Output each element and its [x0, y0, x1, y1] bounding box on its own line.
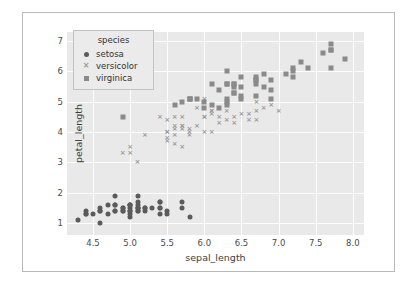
data-point-virginica	[202, 99, 207, 104]
grid-line-vertical	[279, 32, 280, 235]
data-point-setosa	[76, 217, 81, 222]
data-point-setosa	[105, 211, 110, 216]
y-tick-label: 3	[49, 157, 63, 167]
x-axis-title: sepal_length	[67, 252, 364, 263]
data-point-versicolor	[194, 123, 200, 129]
data-point-versicolor	[179, 144, 185, 150]
data-point-versicolor	[268, 102, 274, 108]
grid-line-horizontal	[67, 132, 364, 133]
grid-line-horizontal	[67, 223, 364, 224]
data-point-versicolor	[201, 114, 207, 120]
grid-line-vertical	[316, 32, 317, 235]
x-tick-label: 6.0	[198, 238, 212, 248]
data-point-versicolor	[253, 99, 259, 105]
legend-entry-virginica[interactable]: virginica	[79, 72, 148, 84]
legend-marker-glyph	[84, 52, 89, 57]
data-point-virginica	[291, 69, 296, 74]
data-point-setosa	[113, 208, 118, 213]
legend-entry-setosa[interactable]: setosa	[79, 48, 148, 60]
legend-title: species	[79, 35, 148, 45]
data-point-setosa	[157, 205, 162, 210]
data-point-virginica	[209, 102, 214, 107]
data-point-versicolor	[120, 150, 126, 156]
data-point-virginica	[269, 87, 274, 92]
data-point-virginica	[328, 48, 333, 53]
data-point-virginica	[232, 84, 237, 89]
data-point-setosa	[165, 211, 170, 216]
data-point-setosa	[128, 202, 133, 207]
grid-line-horizontal	[67, 102, 364, 103]
data-point-setosa	[157, 211, 162, 216]
data-point-virginica	[239, 75, 244, 80]
data-point-virginica	[224, 69, 229, 74]
data-point-virginica	[217, 87, 222, 92]
data-point-virginica	[217, 105, 222, 110]
data-point-virginica	[232, 90, 237, 95]
data-point-versicolor	[135, 159, 141, 165]
data-point-versicolor	[209, 129, 215, 135]
data-point-versicolor	[157, 114, 163, 120]
data-point-versicolor	[231, 120, 237, 126]
data-point-versicolor	[238, 111, 244, 117]
data-point-virginica	[202, 105, 207, 110]
data-point-virginica	[261, 72, 266, 77]
data-point-versicolor	[187, 129, 193, 135]
data-point-versicolor	[261, 105, 267, 111]
x-tick-label: 7.0	[272, 238, 286, 248]
data-point-virginica	[224, 81, 229, 86]
legend-entry-versicolor[interactable]: ×versicolor	[79, 60, 148, 72]
legend-label: virginica	[93, 73, 132, 83]
data-point-virginica	[254, 78, 259, 83]
grid-line-horizontal	[67, 193, 364, 194]
data-point-virginica	[269, 78, 274, 83]
data-point-virginica	[224, 99, 229, 104]
data-point-versicolor	[179, 126, 185, 132]
data-point-versicolor	[224, 117, 230, 123]
data-point-setosa	[128, 208, 133, 213]
figure-canvas: 4.55.05.56.06.57.07.58.0 1234567 sepal_l…	[22, 12, 395, 272]
data-point-virginica	[209, 81, 214, 86]
data-point-versicolor	[172, 141, 178, 147]
grid-line-horizontal	[67, 162, 364, 163]
data-point-versicolor	[164, 138, 170, 144]
data-point-setosa	[180, 199, 185, 204]
legend-marker-circle-icon	[79, 52, 93, 57]
data-point-setosa	[157, 199, 162, 204]
data-point-virginica	[298, 60, 303, 65]
y-tick-label: 5	[49, 97, 63, 107]
legend-entries: setosa×versicolorvirginica	[79, 48, 148, 84]
y-tick-label: 2	[49, 188, 63, 198]
data-point-setosa	[135, 193, 140, 198]
data-point-setosa	[113, 193, 118, 198]
data-point-virginica	[194, 96, 199, 101]
x-tick-label: 5.5	[160, 238, 174, 248]
data-point-versicolor	[142, 132, 148, 138]
data-point-virginica	[187, 96, 192, 101]
data-point-setosa	[98, 220, 103, 225]
x-tick-label: 6.5	[235, 238, 249, 248]
data-point-virginica	[239, 84, 244, 89]
data-point-setosa	[150, 205, 155, 210]
legend[interactable]: species setosa×versicolorvirginica	[73, 30, 154, 90]
legend-label: versicolor	[93, 61, 137, 71]
data-point-virginica	[321, 51, 326, 56]
data-point-virginica	[306, 66, 311, 71]
data-point-virginica	[180, 99, 185, 104]
data-point-versicolor	[253, 117, 259, 123]
data-point-versicolor	[209, 111, 215, 117]
data-point-setosa	[135, 202, 140, 207]
data-point-virginica	[261, 84, 266, 89]
data-point-versicolor	[246, 117, 252, 123]
y-tick-label: 7	[49, 36, 63, 46]
data-point-versicolor	[172, 114, 178, 120]
data-point-virginica	[328, 66, 333, 71]
data-point-versicolor	[164, 129, 170, 135]
data-point-virginica	[172, 102, 177, 107]
legend-marker-square-icon	[79, 76, 93, 81]
data-point-versicolor	[216, 120, 222, 126]
y-tick-label: 1	[49, 218, 63, 228]
data-point-setosa	[105, 202, 110, 207]
data-point-setosa	[83, 211, 88, 216]
data-point-setosa	[142, 205, 147, 210]
data-point-virginica	[239, 93, 244, 98]
